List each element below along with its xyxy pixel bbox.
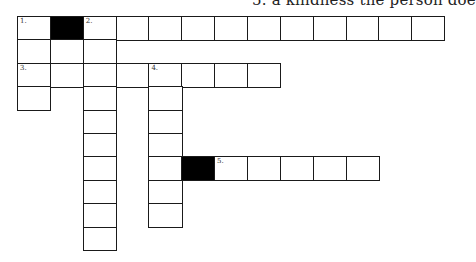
crossword-cell[interactable]: [83, 227, 117, 252]
crossword-cell[interactable]: [83, 180, 117, 205]
crossword-cell[interactable]: [247, 16, 281, 41]
crossword-cell[interactable]: [83, 63, 117, 88]
crossword-cell[interactable]: [214, 63, 248, 88]
clue-number: 4.: [151, 65, 158, 72]
clue-number: 1.: [20, 18, 27, 25]
crossword-cell[interactable]: [116, 16, 150, 41]
crossword-cell[interactable]: [83, 203, 117, 228]
black-cell: [181, 156, 215, 181]
black-cell: [50, 16, 84, 41]
crossword-cell[interactable]: [83, 156, 117, 181]
crossword-cell[interactable]: 4.: [148, 63, 182, 88]
crossword-cell[interactable]: [181, 16, 215, 41]
crossword-cell[interactable]: [17, 86, 51, 111]
crossword-cell[interactable]: [313, 156, 347, 181]
crossword-cell[interactable]: [50, 63, 84, 88]
crossword-cell[interactable]: [17, 39, 51, 64]
crossword-cell[interactable]: [313, 16, 347, 41]
crossword-cell[interactable]: [116, 63, 150, 88]
clue-number: 5.: [217, 158, 224, 165]
crossword-cell[interactable]: [247, 63, 281, 88]
crossword-cell[interactable]: [148, 133, 182, 158]
crossword-cell[interactable]: [148, 86, 182, 111]
crossword-cell[interactable]: [50, 39, 84, 64]
crossword-cell[interactable]: [411, 16, 445, 41]
clue-number: 2.: [86, 18, 93, 25]
crossword-cell[interactable]: 5.: [214, 156, 248, 181]
crossword-cell[interactable]: [148, 203, 182, 228]
crossword-cell[interactable]: [83, 86, 117, 111]
crossword-cell[interactable]: [214, 16, 248, 41]
crossword-cell[interactable]: [280, 156, 314, 181]
crossword-cell[interactable]: [83, 39, 117, 64]
crossword-cell[interactable]: [148, 156, 182, 181]
crossword-cell[interactable]: [148, 180, 182, 205]
crossword-cell[interactable]: [83, 133, 117, 158]
crossword-cell[interactable]: [83, 110, 117, 135]
crossword-cell[interactable]: [346, 156, 380, 181]
crossword-cell[interactable]: [346, 16, 380, 41]
crossword-cell[interactable]: [378, 16, 412, 41]
crossword-cell[interactable]: [148, 110, 182, 135]
crossword-cell[interactable]: 2.: [83, 16, 117, 41]
crossword-cell[interactable]: [280, 16, 314, 41]
crossword-cell[interactable]: [181, 63, 215, 88]
crossword-cell[interactable]: 1.: [17, 16, 51, 41]
crossword-cell[interactable]: [148, 16, 182, 41]
crossword-cell[interactable]: 3.: [17, 63, 51, 88]
crossword-cell[interactable]: [247, 156, 281, 181]
clue-number: 3.: [20, 65, 27, 72]
